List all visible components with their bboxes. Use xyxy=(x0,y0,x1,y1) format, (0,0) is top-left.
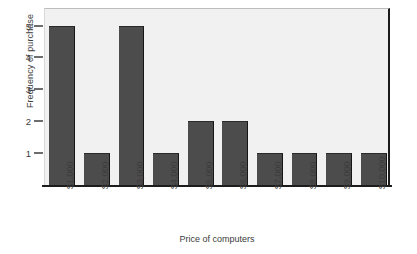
bars-container xyxy=(45,9,388,185)
y-tick-mark xyxy=(34,152,43,154)
x-tick-label: $7,000 xyxy=(273,161,283,189)
x-axis-ticks: $1,000$2,000$3,000$4,000$5,000$6,000$7,0… xyxy=(44,187,390,233)
y-tick-mark xyxy=(34,88,43,90)
x-tick-label: $3,000 xyxy=(135,161,145,189)
y-tick-mark xyxy=(34,56,43,58)
x-tick-label: $8,000 xyxy=(308,161,318,189)
x-tick-label: $9,000 xyxy=(342,161,352,189)
y-tick-label: 4 xyxy=(26,52,31,63)
y-tick-mark xyxy=(34,120,43,122)
y-tick-label: 1 xyxy=(26,148,31,159)
y-tick-mark xyxy=(34,25,43,27)
y-tick-label: 5 xyxy=(26,20,31,31)
plot-area xyxy=(44,8,390,185)
y-tick-label: 2 xyxy=(26,116,31,127)
x-tick-label: $10,000 xyxy=(377,156,387,189)
x-axis-title: Price of computers xyxy=(44,234,390,244)
y-axis-ticks: 12345 xyxy=(0,0,44,254)
x-tick-label: $4,000 xyxy=(169,161,179,189)
x-tick-label: $5,000 xyxy=(204,161,214,189)
x-tick-label: $1,000 xyxy=(65,161,75,189)
y-tick-label: 3 xyxy=(26,84,31,95)
x-tick-label: $6,000 xyxy=(238,161,248,189)
x-tick-label: $2,000 xyxy=(100,161,110,189)
bar-chart-figure: Frequency of purchase 12345 $1,000$2,000… xyxy=(0,0,417,254)
